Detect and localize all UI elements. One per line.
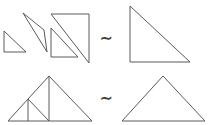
dissected-isosceles-triangle-outline — [8, 76, 92, 121]
similar-to-icon-top: ∼ — [98, 31, 114, 46]
small-right-triangle-left — [4, 31, 26, 52]
top-right-shape-group — [130, 6, 190, 62]
small-right-triangle-inner — [51, 28, 78, 57]
bottom-right-shape-group — [122, 76, 205, 121]
geometry-figure: ∼ ∼ — [0, 0, 208, 125]
similar-to-icon-bottom: ∼ — [98, 91, 114, 106]
figure-canvas — [0, 0, 208, 125]
top-left-shape-group — [4, 13, 89, 63]
whole-isosceles-triangle — [122, 76, 205, 121]
left-midsegment — [28, 99, 49, 121]
large-right-triangle-right — [51, 14, 89, 63]
bottom-left-shape-group — [8, 76, 92, 121]
tilted-triangle-center — [23, 13, 47, 52]
whole-right-triangle — [130, 6, 190, 62]
